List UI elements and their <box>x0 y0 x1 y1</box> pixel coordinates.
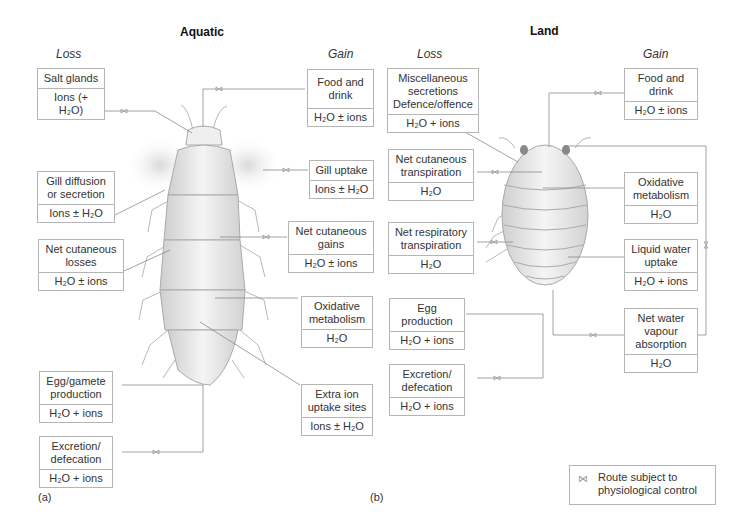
aquatic-loss-egg-gamete: Egg/gamete production H₂O + ions <box>39 371 113 423</box>
box-title: Miscellaneous secretions Defence/offence <box>388 69 478 115</box>
land-title: Land <box>530 24 559 38</box>
box-title: Excretion/ defecation <box>40 437 112 470</box>
box-title: Excretion/ defecation <box>390 365 464 398</box>
box-title: Net cutaneous losses <box>39 240 123 273</box>
box-content: H₂O <box>625 206 697 223</box>
box-content: H₂O <box>625 355 697 372</box>
box-title: Egg/gamete production <box>40 372 112 405</box>
aquatic-loss-gill-diffusion: Gill diffusion or secretion Ions ± H₂O <box>37 171 115 223</box>
box-content: Ions (+ H₂O) <box>38 89 104 119</box>
valve-icon: ⋈ <box>578 472 588 485</box>
land-loss-cutaneous-transpiration: Net cutaneous transpiration H₂O <box>388 149 474 201</box>
box-title: Oxidative metabolism <box>625 173 697 206</box>
box-content: H₂O + ions <box>390 332 464 349</box>
box-content: H₂O + ions <box>40 405 112 422</box>
box-content: H₂O + ions <box>390 398 464 415</box>
box-content: Ions ± H₂O <box>302 418 372 435</box>
legend: ⋈ Route subject to physiological control <box>569 465 716 505</box>
box-content: H₂O + ions <box>40 470 112 487</box>
box-title: Oxidative metabolism <box>302 297 372 330</box>
land-gain-food-drink: Food and drink H₂O ± ions <box>624 68 698 120</box>
aquatic-isopod-illustration <box>125 105 283 385</box>
aquatic-gain-gill-uptake: Gill uptake Ions ± H₂O <box>309 160 374 199</box>
land-gain-liquid-water: Liquid water uptake H₂O + ions <box>624 239 698 291</box>
land-loss-heading: Loss <box>417 47 442 61</box>
land-gain-heading: Gain <box>643 47 668 61</box>
aquatic-gain-extra-ion: Extra ion uptake sites Ions ± H₂O <box>301 384 373 436</box>
aquatic-gain-food-drink: Food and drink H₂O ± ions <box>307 69 374 127</box>
box-content: H₂O ± ions <box>289 255 373 272</box>
land-loss-misc-secretions: Miscellaneous secretions Defence/offence… <box>387 68 479 133</box>
aquatic-gain-oxidative: Oxidative metabolism H₂O <box>301 296 373 348</box>
box-title: Net cutaneous transpiration <box>389 150 473 183</box>
box-title: Net water vapour absorption <box>625 309 697 355</box>
aquatic-loss-excretion: Excretion/ defecation H₂O + ions <box>39 436 113 488</box>
panel-label-b: (b) <box>370 491 383 503</box>
box-content: H₂O + ions <box>388 115 478 132</box>
box-title: Food and drink <box>625 69 697 102</box>
land-loss-egg-production: Egg production H₂O + ions <box>389 298 465 350</box>
box-title: Liquid water uptake <box>625 240 697 273</box>
aquatic-gain-net-cutaneous: Net cutaneous gains H₂O ± ions <box>288 221 374 273</box>
box-content: Ions ± H₂O <box>310 181 373 198</box>
box-title: Extra ion uptake sites <box>302 385 372 418</box>
box-content: H₂O ± ions <box>308 109 373 126</box>
aquatic-gain-heading: Gain <box>328 47 353 61</box>
box-content: Ions ± H₂O <box>38 205 114 222</box>
box-content: H₂O <box>302 330 372 347</box>
box-content: H₂O + ions <box>625 273 697 290</box>
box-content: H₂O ± ions <box>39 273 123 290</box>
box-content: H₂O <box>389 183 473 200</box>
box-title: Net respiratory transpiration <box>389 223 473 256</box>
aquatic-loss-heading: Loss <box>56 47 81 61</box>
land-loss-excretion: Excretion/ defecation H₂O + ions <box>389 364 465 416</box>
panel-label-a: (a) <box>38 491 51 503</box>
land-isopod-illustration <box>486 138 591 285</box>
aquatic-loss-salt-glands: Salt glands Ions (+ H₂O) <box>37 68 105 120</box>
box-title: Egg production <box>390 299 464 332</box>
box-title: Salt glands <box>38 69 104 89</box>
aquatic-title: Aquatic <box>180 25 224 39</box>
box-title: Food and drink <box>308 70 373 109</box>
box-content: H₂O <box>389 256 473 273</box>
land-gain-water-vapour: Net water vapour absorption H₂O <box>624 308 698 373</box>
box-title: Gill diffusion or secretion <box>38 172 114 205</box>
aquatic-loss-net-cutaneous: Net cutaneous losses H₂O ± ions <box>38 239 124 291</box>
box-content: H₂O ± ions <box>625 102 697 119</box>
land-loss-respiratory-transpiration: Net respiratory transpiration H₂O <box>388 222 474 274</box>
land-gain-oxidative: Oxidative metabolism H₂O <box>624 172 698 224</box>
box-title: Gill uptake <box>310 161 373 181</box>
legend-text: Route subject to physiological control <box>598 471 697 497</box>
box-title: Net cutaneous gains <box>289 222 373 255</box>
